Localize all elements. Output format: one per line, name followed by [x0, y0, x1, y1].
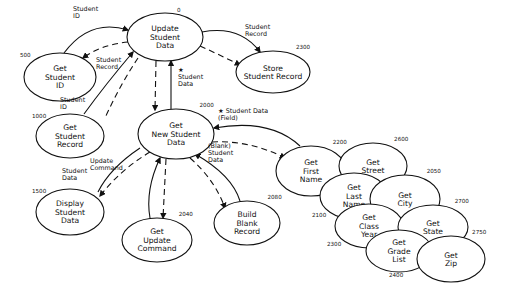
- process-label: Data: [156, 41, 174, 50]
- process-number: 2400: [389, 272, 404, 278]
- flow-label-text: Data: [62, 174, 77, 182]
- process-number: 2050: [427, 168, 442, 174]
- process-number: 2040: [179, 211, 194, 217]
- flow-label-student-id-lower: StudentID: [60, 96, 86, 111]
- process-node-display-student-data: DisplayStudentData1500: [32, 188, 104, 235]
- process-label: Zip: [445, 259, 457, 268]
- flow-label-student-data-field: ★ Student Data(Field): [218, 107, 268, 122]
- process-number: 500: [20, 52, 31, 58]
- flow-label-student-data-left: StudentData: [62, 167, 88, 182]
- process-node-update-student-data: UpdateStudentData0: [127, 7, 203, 61]
- process-number: 0: [177, 7, 181, 13]
- process-number: 2600: [394, 136, 409, 142]
- flow-label-text: ID: [73, 12, 80, 20]
- flow-label-text: Record: [96, 63, 118, 71]
- flow-label-text: Data: [208, 156, 223, 164]
- process-number: 2000: [200, 102, 215, 108]
- process-node-build-blank-record: BuildBlankRecord2080: [214, 194, 282, 245]
- process-node-get-update-command: GetUpdateCommand2040: [122, 211, 193, 262]
- data-flow-diagram: UpdateStudentData0GetStudentID500StoreSt…: [0, 0, 509, 296]
- process-label: List: [392, 255, 405, 264]
- process-label: Data: [167, 138, 185, 147]
- process-number: 2100: [312, 212, 327, 218]
- process-label: City: [398, 199, 413, 208]
- process-label: Student Record: [244, 72, 303, 81]
- flow-label-text: ID: [60, 103, 67, 111]
- flow-label-text: (Field): [218, 114, 238, 122]
- process-label: ID: [56, 81, 64, 90]
- flow-arrow-dashed: [155, 61, 156, 110]
- process-label: Data: [61, 216, 79, 225]
- flow-label-update-command: UpdateCommand: [90, 157, 123, 172]
- nodes-layer: UpdateStudentData0GetStudentID500StoreSt…: [20, 7, 487, 282]
- process-number: 2750: [472, 229, 487, 235]
- flow-arrow-dashed: [200, 46, 240, 65]
- flow-label-text: Data: [178, 80, 193, 88]
- process-number: 1500: [32, 188, 47, 194]
- flow-label-student-record-right: StudentRecord: [245, 23, 271, 38]
- process-number: 2300: [327, 241, 342, 247]
- flow-arrow-solid: [64, 27, 128, 53]
- process-label: Record: [234, 227, 260, 236]
- process-node-get-student-record: GetStudentRecord1000: [32, 113, 104, 158]
- flow-arrow-dashed: [190, 158, 225, 208]
- process-number: 2080: [267, 194, 282, 200]
- process-node-store-student-record: StoreStudent Record2300: [236, 44, 311, 93]
- flow-label-student-record-left: StudentRecord: [96, 56, 122, 71]
- flow-label-student-data-mid: ★StudentData: [178, 66, 204, 88]
- flow-label-student-id-top: StudentID: [73, 5, 99, 20]
- flow-arrow-dashed: [163, 159, 166, 218]
- flow-arrow-solid: [149, 158, 160, 218]
- process-number: 2700: [455, 198, 470, 204]
- process-label: Name: [300, 175, 323, 184]
- flow-label-text: Record: [245, 30, 267, 38]
- process-node-get-student-id: GetStudentID500: [20, 52, 96, 101]
- process-label: State: [423, 227, 443, 236]
- process-label: Street: [361, 166, 384, 175]
- process-number: 2200: [333, 139, 348, 145]
- process-label: Record: [57, 140, 83, 149]
- process-node-get-new-student-data: GetNew StudentData2000: [138, 102, 214, 159]
- flow-label-text: Command: [90, 164, 123, 172]
- process-number: 1000: [32, 113, 47, 119]
- flow-label-blank-student-data: (Blank)StudentData: [208, 142, 234, 164]
- process-label: Command: [137, 244, 176, 253]
- process-number: 2300: [296, 44, 311, 50]
